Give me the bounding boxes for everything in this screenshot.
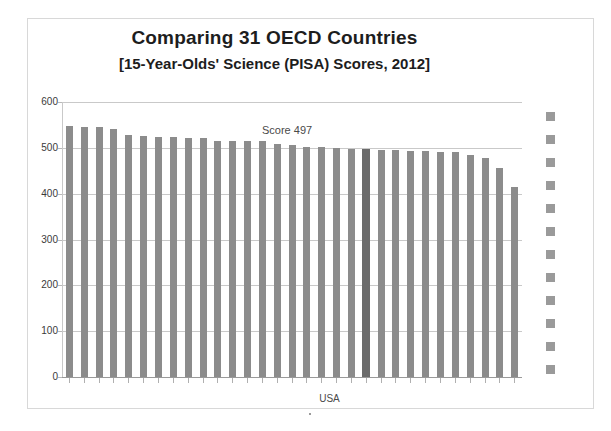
bar-slot <box>121 102 136 377</box>
bar-slot <box>285 102 300 377</box>
bar <box>407 151 414 377</box>
x-tick-slot <box>314 378 329 383</box>
bar-slot <box>478 102 493 377</box>
bar <box>259 141 266 377</box>
bar <box>333 148 340 377</box>
y-tick-label-600: 600 <box>18 96 58 107</box>
chart-screenshot: Comparing 31 OECD Countries [15-Year-Old… <box>0 0 611 431</box>
bar <box>348 149 355 377</box>
bar <box>125 135 132 377</box>
x-tick-slot <box>255 378 270 383</box>
bar-slot <box>270 102 285 377</box>
legend-swatch <box>546 112 555 121</box>
legend-swatch <box>546 204 555 213</box>
bar <box>289 145 296 377</box>
x-tick-slot <box>344 378 359 383</box>
x-tick-mark <box>128 378 129 383</box>
decorative-dot <box>309 413 311 415</box>
x-tick-mark <box>455 378 456 383</box>
x-tick-mark <box>158 378 159 383</box>
x-tick-slot <box>181 378 196 383</box>
bar-slot <box>314 102 329 377</box>
legend-swatch <box>546 250 555 259</box>
bar <box>452 152 459 377</box>
x-tick-slot <box>448 378 463 383</box>
bar-usa <box>362 149 370 377</box>
bar-slot <box>463 102 478 377</box>
title-block: Comparing 31 OECD Countries [15-Year-Old… <box>27 26 522 75</box>
bar-slot <box>77 102 92 377</box>
y-axis-labels: 6005004003002001000 <box>14 102 58 377</box>
legend-swatch <box>546 296 555 305</box>
x-tick-mark <box>113 378 114 383</box>
y-tick-label-500: 500 <box>18 142 58 153</box>
bar <box>81 127 88 377</box>
bar <box>66 126 73 377</box>
bar-slot <box>300 102 315 377</box>
bar <box>378 150 385 377</box>
x-tick-mark <box>69 378 70 383</box>
x-tick-mark <box>499 378 500 383</box>
legend-swatch <box>546 227 555 236</box>
x-tick-slot <box>285 378 300 383</box>
bar-slot <box>196 102 211 377</box>
x-tick-slot <box>270 378 285 383</box>
x-tick-slot <box>151 378 166 383</box>
bar <box>422 151 429 377</box>
x-tick-slot <box>463 378 478 383</box>
bar-slot <box>166 102 181 377</box>
x-tick-slot <box>300 378 315 383</box>
x-tick-mark <box>232 378 233 383</box>
x-tick-mark <box>306 378 307 383</box>
bar-slot <box>181 102 196 377</box>
x-tick-slot <box>166 378 181 383</box>
x-tick-mark <box>336 378 337 383</box>
bar <box>155 137 162 377</box>
bar-slot <box>344 102 359 377</box>
bar-slot <box>255 102 270 377</box>
x-tick-mark <box>277 378 278 383</box>
bar <box>200 138 207 377</box>
x-tick-mark <box>485 378 486 383</box>
bar <box>303 147 310 377</box>
bar-slot <box>225 102 240 377</box>
bar <box>437 152 444 377</box>
x-tick-mark <box>425 378 426 383</box>
x-tick-mark <box>99 378 100 383</box>
x-tick-slot <box>210 378 225 383</box>
bar-slot <box>359 102 374 377</box>
x-tick-slot <box>77 378 92 383</box>
bar <box>96 127 103 377</box>
bar-series <box>62 102 522 377</box>
bar-slot <box>151 102 166 377</box>
x-tick-slot <box>374 378 389 383</box>
x-tick-slot <box>107 378 122 383</box>
x-tick-mark <box>143 378 144 383</box>
bar <box>511 187 518 377</box>
x-tick-mark <box>247 378 248 383</box>
bar-slot <box>240 102 255 377</box>
x-tick-slot <box>329 378 344 383</box>
bar-slot <box>136 102 151 377</box>
x-tick-mark <box>440 378 441 383</box>
x-tick-mark <box>351 378 352 383</box>
y-tick-label-200: 200 <box>18 279 58 290</box>
legend-swatch <box>546 158 555 167</box>
x-tick-mark <box>366 378 367 383</box>
bar-slot <box>329 102 344 377</box>
x-tick-slot <box>492 378 507 383</box>
legend-swatch-column <box>543 112 557 374</box>
legend-swatch <box>546 135 555 144</box>
bar <box>185 138 192 377</box>
chart-subtitle: [15-Year-Olds' Science (PISA) Scores, 20… <box>27 53 522 75</box>
x-tick-slot <box>507 378 522 383</box>
chart-title: Comparing 31 OECD Countries <box>27 26 522 50</box>
x-tick-mark <box>381 378 382 383</box>
legend-swatch <box>546 273 555 282</box>
x-tick-slot <box>240 378 255 383</box>
bar-slot <box>507 102 522 377</box>
bar-slot <box>107 102 122 377</box>
bar <box>229 141 236 377</box>
bar <box>274 144 281 377</box>
x-tick-slot <box>403 378 418 383</box>
